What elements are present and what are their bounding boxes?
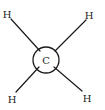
bond-bottom-left — [16, 67, 39, 92]
methane-structure-diagram: C H H H H — [0, 0, 105, 110]
bond-top-left — [11, 19, 40, 51]
structure-canvas: C H H H H — [0, 0, 105, 110]
hydrogen-label-top-right: H — [85, 10, 94, 21]
carbon-label: C — [42, 55, 50, 66]
hydrogen-label-bottom-left: H — [8, 94, 17, 105]
hydrogen-label-top-left: H — [3, 9, 12, 20]
bond-bottom-right — [54, 67, 82, 91]
bond-top-right — [55, 20, 86, 51]
hydrogen-label-bottom-right: H — [83, 93, 92, 104]
